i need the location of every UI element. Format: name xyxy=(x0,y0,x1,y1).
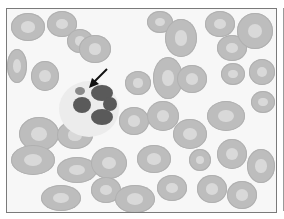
arrow-icon xyxy=(87,67,111,91)
red-blood-cell xyxy=(247,149,275,183)
red-blood-cell xyxy=(173,119,207,149)
red-blood-cell xyxy=(221,63,245,85)
red-blood-cell xyxy=(189,149,211,171)
red-blood-cell xyxy=(165,19,197,57)
red-blood-cell xyxy=(11,145,55,175)
red-blood-cell xyxy=(251,91,275,113)
nucleus-lobe xyxy=(73,97,91,113)
red-blood-cell xyxy=(125,71,151,95)
red-blood-cell xyxy=(237,13,273,49)
red-blood-cell xyxy=(217,139,247,169)
micrograph-frame xyxy=(6,8,277,213)
nucleus-lobe xyxy=(75,87,85,95)
red-blood-cell xyxy=(31,61,59,91)
red-blood-cell xyxy=(91,147,127,179)
red-blood-cell xyxy=(115,185,155,213)
red-blood-cell xyxy=(137,145,171,173)
red-blood-cell xyxy=(11,13,45,41)
red-blood-cell xyxy=(79,35,111,63)
red-blood-cell xyxy=(41,185,81,211)
red-blood-cell xyxy=(207,101,245,131)
red-blood-cell xyxy=(177,65,207,93)
nucleus-lobe xyxy=(91,109,113,125)
red-blood-cell xyxy=(197,175,227,203)
red-blood-cell xyxy=(205,11,235,37)
red-blood-cell xyxy=(227,181,257,209)
red-blood-cell xyxy=(119,107,149,135)
red-blood-cell xyxy=(7,49,27,83)
red-blood-cell xyxy=(157,175,187,201)
right-edge-line xyxy=(283,8,284,211)
red-blood-cell xyxy=(249,59,275,85)
